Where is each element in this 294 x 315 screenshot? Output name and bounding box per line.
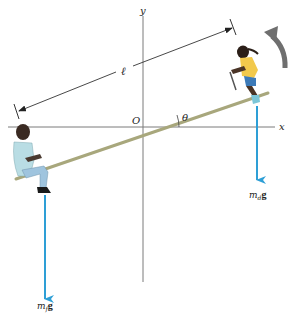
father-weight-label: mfg <box>37 300 53 313</box>
daughter-weight-label: mdg <box>249 189 266 201</box>
length-label: ℓ <box>121 65 126 78</box>
x-axis-label: x <box>279 121 285 132</box>
daughter-figure <box>230 46 260 105</box>
angle-label: θ <box>182 112 188 123</box>
y-axis-label: y <box>139 5 146 16</box>
origin-label: O <box>132 115 140 126</box>
seesaw-diagram: y x O ℓ θ mdg mfg <box>0 0 294 315</box>
seesaw-plank <box>16 93 268 179</box>
rotation-direction-arrow <box>264 26 285 68</box>
father-figure <box>14 124 52 193</box>
